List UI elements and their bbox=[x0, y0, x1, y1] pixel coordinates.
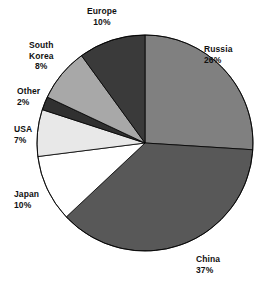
pie-label-name-usa: USA bbox=[14, 124, 32, 135]
pie-label-name-other: Other bbox=[17, 86, 40, 97]
pie-label-usa: USA7% bbox=[14, 124, 32, 145]
pie-label-china: China37% bbox=[196, 254, 220, 275]
pie-label-name-south-korea: South bbox=[29, 40, 54, 51]
pie-label-russia: Russia26% bbox=[204, 44, 232, 65]
pie-label-value-usa: 7% bbox=[14, 135, 32, 146]
pie-chart-figure: Russia26%China37%Japan10%USA7%Other2%Sou… bbox=[0, 0, 270, 283]
chart-plot-area: Russia26%China37%Japan10%USA7%Other2%Sou… bbox=[0, 0, 270, 283]
pie-label-name-japan: Japan bbox=[14, 189, 39, 200]
pie-label-value-europe: 10% bbox=[87, 17, 117, 28]
pie-label-name-russia: Russia bbox=[204, 44, 232, 55]
pie-label-value-south-korea: 8% bbox=[29, 61, 54, 72]
pie-label-value-russia: 26% bbox=[204, 55, 232, 66]
pie-slice-russia[interactable] bbox=[145, 35, 253, 150]
pie-label-value-other: 2% bbox=[17, 97, 40, 108]
pie-label-value-china: 37% bbox=[196, 265, 220, 276]
pie-label-europe: Europe10% bbox=[87, 6, 117, 27]
pie-label-name-europe: Europe bbox=[87, 6, 117, 17]
pie-label-japan: Japan10% bbox=[14, 189, 39, 210]
pie-label-name-china: China bbox=[196, 254, 220, 265]
pie-label-value-japan: 10% bbox=[14, 200, 39, 211]
pie-label-name-south-korea: Korea bbox=[29, 51, 54, 62]
pie-label-south-korea: SouthKorea8% bbox=[29, 40, 54, 72]
pie-label-other: Other2% bbox=[17, 86, 40, 107]
